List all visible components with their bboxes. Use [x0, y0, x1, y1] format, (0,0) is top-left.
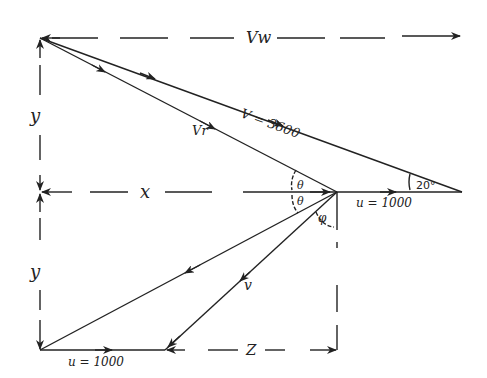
u-bottom-label: u = 1000	[68, 355, 124, 369]
angle-20-arc	[409, 174, 410, 190]
x-label: x	[140, 181, 150, 202]
y-lower-label: y	[29, 261, 41, 282]
vr-label: Vr	[192, 123, 208, 138]
angle-20-label: 20°	[416, 179, 436, 192]
vw-label: Vw	[246, 28, 272, 47]
v-label: V = 3600	[239, 106, 302, 141]
theta-upper-arc	[292, 170, 297, 190]
velocity-diagram: Vw V = 3600 Vr y y x θ θ φ 20° u = 1000 …	[0, 0, 487, 378]
phi-label: φ	[318, 211, 327, 225]
z-label: Z	[245, 341, 257, 359]
u-mid-label: u = 1000	[356, 196, 412, 210]
theta-lower-label: θ	[297, 195, 304, 208]
v-lower-line	[165, 192, 337, 350]
vr-line	[40, 38, 337, 192]
theta-upper-label: θ	[297, 179, 304, 192]
y-upper-label: y	[29, 105, 41, 126]
v-lower-label: v	[244, 277, 252, 293]
